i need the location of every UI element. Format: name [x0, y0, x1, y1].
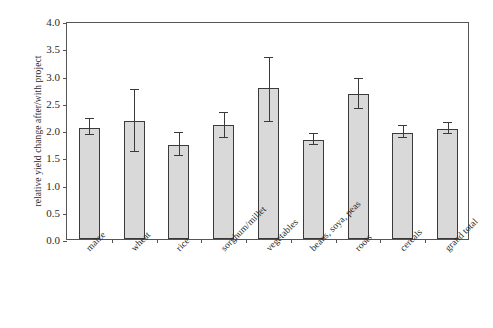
x-axis-tick-mark: [112, 239, 113, 243]
error-bar-cap-lower: [264, 121, 273, 122]
error-bar-stem: [358, 79, 359, 109]
error-bar-cap-upper: [130, 89, 139, 90]
error-bar-stem: [179, 133, 180, 156]
y-axis-tick-label: 3.5: [34, 44, 60, 55]
error-bar-cap-lower: [398, 137, 407, 138]
error-bar-cap-lower: [130, 151, 139, 152]
y-axis-tick-mark: [63, 78, 67, 79]
bar: [392, 133, 413, 239]
bar: [303, 140, 324, 239]
error-bar-cap-upper: [174, 132, 183, 133]
y-axis-tick-labels: 0.00.51.01.52.02.53.03.54.0: [34, 0, 60, 328]
y-axis-tick-mark: [63, 23, 67, 24]
x-axis-tick-mark: [201, 239, 202, 243]
bar: [437, 129, 458, 239]
y-axis-tick-mark: [63, 214, 67, 215]
error-bar-cap-lower: [443, 133, 452, 134]
y-axis-tick-label: 1.5: [34, 153, 60, 164]
y-axis-tick-mark: [63, 241, 67, 242]
error-bar-cap-lower: [85, 134, 94, 135]
error-bar-cap-upper: [219, 112, 228, 113]
y-axis-tick-label: 1.0: [34, 180, 60, 191]
error-bar-cap-upper: [85, 118, 94, 119]
error-bar-stem: [89, 119, 90, 135]
error-bar-cap-lower: [174, 155, 183, 156]
error-bar-stem: [134, 90, 135, 152]
error-bar-stem: [224, 113, 225, 138]
bar: [213, 125, 234, 239]
y-axis-tick-label: 3.0: [34, 71, 60, 82]
y-axis-tick-mark: [63, 187, 67, 188]
y-axis-tick-mark: [63, 105, 67, 106]
y-axis-tick-mark: [63, 159, 67, 160]
error-bar-cap-upper: [443, 122, 452, 123]
error-bar-cap-upper: [398, 125, 407, 126]
y-axis-tick-label: 4.0: [34, 17, 60, 28]
error-bar-cap-lower: [354, 108, 363, 109]
y-axis-tick-mark: [63, 132, 67, 133]
bar: [79, 128, 100, 239]
x-axis-tick-mark: [336, 239, 337, 243]
error-bar-cap-upper: [264, 57, 273, 58]
plot-area: [66, 22, 469, 240]
y-axis-tick-label: 2.5: [34, 98, 60, 109]
error-bar-cap-lower: [309, 144, 318, 145]
error-bar-cap-upper: [354, 78, 363, 79]
x-axis-tick-mark: [157, 239, 158, 243]
x-axis-tick-mark: [246, 239, 247, 243]
bar-chart-figure: relative yield change after/with project…: [0, 0, 493, 328]
y-axis-tick-mark: [63, 50, 67, 51]
error-bar-cap-upper: [309, 133, 318, 134]
error-bar-stem: [269, 58, 270, 123]
y-axis-tick-label: 0.5: [34, 207, 60, 218]
bar: [168, 145, 189, 239]
x-axis-tick-mark: [380, 239, 381, 243]
x-axis-tick-mark: [291, 239, 292, 243]
x-axis-tick-mark: [425, 239, 426, 243]
y-axis-tick-label: 0.0: [34, 235, 60, 246]
error-bar-cap-lower: [219, 137, 228, 138]
y-axis-tick-label: 2.0: [34, 126, 60, 137]
